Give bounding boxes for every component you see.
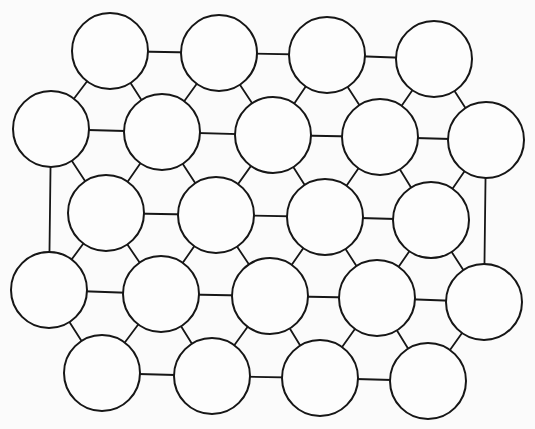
node-circle-J xyxy=(68,175,144,251)
node-circle-R xyxy=(446,264,522,340)
node-circle-T xyxy=(174,338,250,414)
node-circle-A xyxy=(72,13,148,89)
node-circle-K xyxy=(178,177,254,253)
lattice-diagram xyxy=(0,0,535,429)
node-circle-I xyxy=(448,102,524,178)
node-circle-S xyxy=(64,335,140,411)
node-circle-L xyxy=(287,179,363,255)
node-circle-G xyxy=(235,97,311,173)
node-circle-V xyxy=(390,343,466,419)
node-circle-B xyxy=(181,15,257,91)
node-circle-C xyxy=(289,17,365,93)
node-circle-D xyxy=(396,21,472,97)
node-circle-N xyxy=(11,252,87,328)
node-circle-F xyxy=(124,94,200,170)
node-circle-O xyxy=(123,256,199,332)
node-circle-Q xyxy=(339,260,415,336)
node-circle-U xyxy=(282,340,358,416)
node-circle-M xyxy=(393,182,469,258)
node-circle-P xyxy=(232,258,308,334)
node-circle-E xyxy=(13,91,89,167)
node-circle-H xyxy=(342,99,418,175)
